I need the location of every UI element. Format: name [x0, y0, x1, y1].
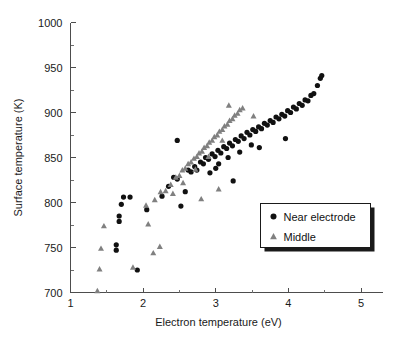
x-axis-title: Electron temperature (eV)	[155, 316, 282, 328]
data-point-triangle	[170, 191, 176, 196]
y-tick-label: 750	[44, 242, 62, 254]
data-point-circle	[207, 170, 212, 175]
data-point-triangle	[226, 102, 232, 107]
data-point-triangle	[150, 250, 156, 255]
data-point-circle	[188, 169, 193, 174]
data-point-circle	[276, 116, 281, 121]
data-point-circle	[271, 120, 276, 125]
data-point-circle	[231, 178, 236, 183]
data-point-triangle	[152, 197, 158, 202]
data-point-circle	[212, 154, 217, 159]
data-point-circle	[119, 202, 124, 207]
data-point-circle	[183, 189, 188, 194]
data-point-triangle	[97, 266, 103, 271]
data-point-circle	[249, 142, 254, 147]
data-point-triangle	[101, 223, 107, 228]
data-point-circle	[117, 213, 122, 218]
legend-entry-0[interactable]: Near electrode	[271, 211, 356, 223]
y-axis-title: Surface temperature (K)	[12, 99, 24, 217]
legend-entry-label: Near electrode	[284, 211, 356, 223]
data-point-triangle	[198, 196, 204, 201]
data-point-circle	[178, 204, 183, 209]
data-point-circle	[114, 248, 119, 253]
data-point-triangle	[240, 105, 246, 110]
data-point-circle	[117, 219, 122, 224]
data-point-circle	[236, 139, 241, 144]
x-tick-label: 5	[358, 297, 364, 309]
data-point-circle	[241, 136, 246, 141]
data-point-triangle	[176, 173, 182, 178]
data-point-circle	[127, 195, 132, 200]
data-point-circle	[247, 132, 252, 137]
data-point-triangle	[130, 264, 136, 269]
data-point-circle	[216, 161, 221, 166]
x-tick-label: 4	[285, 297, 291, 309]
data-point-circle	[201, 161, 206, 166]
data-point-triangle	[157, 244, 163, 249]
data-point-circle	[311, 91, 316, 96]
y-tick-label: 950	[44, 62, 62, 74]
data-point-circle	[253, 129, 258, 134]
y-tick-label: 900	[44, 107, 62, 119]
data-point-triangle	[158, 189, 164, 194]
data-point-circle	[305, 98, 310, 103]
x-tick-label: 3	[213, 297, 219, 309]
series-middle	[94, 102, 256, 293]
data-point-triangle	[98, 245, 104, 250]
legend-circle-icon	[271, 214, 277, 220]
y-tick-label: 1000	[38, 17, 62, 29]
data-point-circle	[218, 150, 223, 155]
plot-canvas: 123457007508008509009501000Electron temp…	[0, 0, 416, 344]
data-point-circle	[135, 267, 140, 272]
data-point-circle	[121, 195, 126, 200]
legend[interactable]: Near electrodeMiddle	[261, 204, 375, 252]
x-tick-label: 2	[140, 297, 146, 309]
y-tick-label: 850	[44, 152, 62, 164]
data-point-circle	[114, 242, 119, 247]
data-point-circle	[213, 166, 218, 171]
data-point-circle	[282, 114, 287, 119]
data-point-triangle	[219, 137, 225, 142]
data-point-circle	[288, 110, 293, 115]
data-point-circle	[257, 145, 262, 150]
data-point-circle	[144, 207, 149, 212]
data-point-circle	[224, 146, 229, 151]
data-point-triangle	[145, 221, 151, 226]
y-tick-label: 800	[44, 197, 62, 209]
data-point-triangle	[180, 180, 186, 185]
data-point-circle	[319, 73, 324, 78]
data-point-triangle	[94, 288, 100, 293]
data-point-circle	[315, 83, 320, 88]
data-point-circle	[283, 136, 288, 141]
data-point-circle	[226, 155, 231, 160]
data-point-triangle	[251, 113, 257, 118]
legend-entry-label: Middle	[284, 231, 316, 243]
data-point-circle	[259, 126, 264, 131]
data-point-circle	[300, 103, 305, 108]
data-point-circle	[159, 194, 164, 199]
y-tick-label: 700	[44, 287, 62, 299]
data-point-triangle	[143, 202, 149, 207]
data-point-circle	[294, 106, 299, 111]
data-point-circle	[237, 150, 242, 155]
data-point-triangle	[216, 186, 222, 191]
x-tick-label: 1	[67, 297, 73, 309]
data-point-circle	[265, 123, 270, 128]
scatter-plot-figure: 123457007508008509009501000Electron temp…	[0, 0, 416, 344]
data-point-circle	[175, 138, 180, 143]
data-point-circle	[230, 143, 235, 148]
data-points-group	[94, 73, 324, 293]
